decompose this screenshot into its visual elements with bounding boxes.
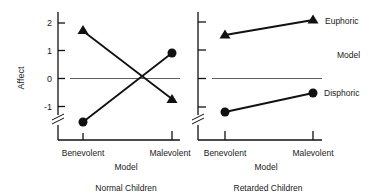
left-panel: 2 1 0 -1 Benevolent Malevolent Model Nor… — [44, 12, 191, 193]
left-euphoric-benevolent-marker — [78, 25, 89, 34]
right-axis-break-icon — [192, 114, 204, 124]
legend-model: Model — [337, 50, 360, 60]
left-x-axis-label: Model — [114, 162, 137, 172]
right-xtick-benevolent: Benevolent — [204, 148, 247, 158]
right-euphoric-malevolent-marker — [308, 15, 319, 24]
y-axis-label: Affect — [16, 66, 26, 89]
legend-disphoric: Disphoric — [324, 88, 360, 98]
right-xtick-malevolent: Malevolent — [292, 148, 334, 158]
ytick-0: 0 — [47, 74, 52, 84]
chart-figure: Affect 2 1 0 -1 — [0, 0, 378, 195]
legend-euphoric: Euphoric — [325, 16, 359, 26]
right-panel: Euphoric Model Disphoric Benevolent Male… — [192, 12, 360, 193]
left-euphoric-line — [83, 31, 172, 99]
left-panel-title: Normal Children — [95, 183, 157, 193]
left-xtick-malevolent: Malevolent — [149, 148, 191, 158]
right-disphoric-benevolent-marker — [221, 108, 230, 117]
right-disphoric-line — [225, 93, 313, 112]
left-disphoric-line — [83, 53, 172, 122]
ytick-2: 2 — [47, 18, 52, 28]
ytick-neg1: -1 — [44, 102, 52, 112]
left-xtick-benevolent: Benevolent — [62, 148, 105, 158]
right-y-ticks — [198, 22, 206, 107]
left-y-ticks — [58, 23, 65, 107]
left-disphoric-malevolent-marker — [168, 49, 177, 58]
right-disphoric-malevolent-marker — [309, 89, 318, 98]
right-euphoric-line — [225, 20, 313, 35]
right-panel-title: Retarded Children — [234, 183, 303, 193]
ytick-1: 1 — [47, 46, 52, 56]
left-axis-break-icon — [52, 114, 64, 124]
right-x-axis-label: Model — [254, 162, 277, 172]
left-disphoric-benevolent-marker — [79, 118, 88, 127]
